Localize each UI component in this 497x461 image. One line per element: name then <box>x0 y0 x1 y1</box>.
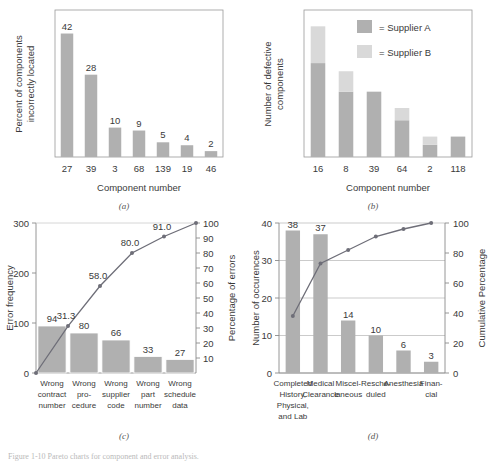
chart-c-line-marker <box>194 221 198 225</box>
chart-a-bar <box>109 128 121 157</box>
chart-b-xtick: 2 <box>427 163 432 174</box>
chart-c-line-marker <box>34 371 38 375</box>
chart-d-xtick: Medical <box>307 379 335 388</box>
chart-c-line-marker <box>98 284 102 288</box>
chart-d-yaxis-right-ticks: 020406080100 <box>445 218 469 379</box>
chart-c-ytick-right: 60 <box>203 278 214 289</box>
chart-b-bar-supplier-a <box>367 92 382 157</box>
chart-a-yaxis-title-line2: incorrectly located <box>25 46 36 123</box>
chart-b-bar-supplier-b <box>423 137 438 145</box>
chart-d-xtick: and Lab <box>278 412 307 421</box>
chart-c-ytick-right: 50 <box>203 293 214 304</box>
chart-c-xtick: cedure <box>72 401 97 410</box>
chart-c-line-marker <box>130 251 134 255</box>
chart-c-xtick: part <box>141 390 156 399</box>
chart-c-yaxis-left-ticks: 0100200300 <box>13 218 36 379</box>
chart-b-xaxis-title: Component number <box>346 182 430 193</box>
chart-d-ytick-right: 100 <box>453 218 469 229</box>
chart-a-bar <box>85 75 97 157</box>
chart-b-bar-supplier-a <box>451 137 466 157</box>
chart-a-svg: 4228109542 27393681391946 Component numb… <box>0 0 248 200</box>
chart-d-ytick-left: 40 <box>261 218 272 229</box>
chart-c-xtick: schedule <box>164 390 197 399</box>
chart-c-ytick-left: 0 <box>24 368 29 379</box>
chart-b-bar-supplier-a <box>423 145 438 157</box>
chart-c-bar-value: 80 <box>79 320 90 331</box>
chart-c-yaxis-right-ticks: 102030405060708090100 <box>196 218 219 364</box>
chart-b-bar-supplier-a <box>339 92 354 157</box>
chart-c-bar <box>134 357 162 374</box>
chart-d-ytick-left: 10 <box>261 330 272 341</box>
chart-b-xtick-labels: 16839642118 <box>313 163 466 174</box>
chart-c-line-marker <box>66 324 70 328</box>
chart-panel-c: 0100200300 102030405060708090100 9480663… <box>0 215 248 443</box>
chart-c-bar <box>102 340 130 373</box>
chart-panel-b: 16839642118 = Supplier A= Supplier B Com… <box>249 0 497 212</box>
chart-c-ytick-right: 10 <box>203 353 214 364</box>
chart-d-bars <box>286 231 439 374</box>
chart-d-ytick-left: 0 <box>267 368 272 379</box>
chart-d-bar <box>313 234 327 373</box>
chart-d-bar <box>396 351 410 374</box>
chart-c-ytick-right: 100 <box>203 218 219 229</box>
chart-a-bar <box>61 34 73 157</box>
chart-b-xtick: 118 <box>450 163 465 174</box>
chart-d-ytick-right: 80 <box>453 248 464 259</box>
chart-d-bar <box>286 231 300 374</box>
chart-c-xtick: Wrong <box>40 379 63 388</box>
chart-d-ytick-left: 30 <box>261 255 272 266</box>
chart-c-bar <box>70 333 98 373</box>
chart-c-xtick: Wrong <box>104 379 127 388</box>
chart-c-svg: 0100200300 102030405060708090100 9480663… <box>0 215 248 430</box>
chart-d-value-labels: 3837141063 <box>288 219 434 361</box>
chart-a-sublabel: (a) <box>0 201 248 211</box>
chart-c-bar-value: 33 <box>143 344 154 355</box>
chart-d-xtick: Finan- <box>420 379 443 388</box>
chart-a-bar <box>157 142 169 157</box>
chart-b-yaxis-title-line2: components <box>274 58 285 110</box>
chart-d-line-marker <box>429 221 433 225</box>
chart-d-bar-value: 37 <box>315 222 326 233</box>
figure-caption: Figure 1-10 Pareto charts for component … <box>8 452 488 461</box>
chart-c-bar-value: 94 <box>47 313 58 324</box>
chart-d-line-marker <box>402 227 406 231</box>
chart-d-xtick-labels: CompletedHistory,Physical,and LabMedical… <box>273 379 442 421</box>
chart-c-bar-value: 66 <box>111 327 122 338</box>
chart-d-ytick-right: 0 <box>453 368 458 379</box>
chart-c-xtick: code <box>107 401 125 410</box>
chart-c-sublabel: (c) <box>0 431 248 441</box>
chart-d-xtick: cial <box>425 390 437 399</box>
chart-c-xtick-labels: WrongcontractnumberWrongpro-cedureWrongs… <box>38 379 197 410</box>
chart-b-xtick: 39 <box>369 163 380 174</box>
chart-c-bar <box>166 360 194 374</box>
chart-a-bar-value: 42 <box>62 21 73 32</box>
chart-a-bar-value: 4 <box>184 132 189 143</box>
chart-a-bar <box>181 145 193 157</box>
chart-c-cumulative-value: 80.0 <box>121 237 140 248</box>
chart-d-bar-value: 38 <box>288 219 299 230</box>
chart-c-cumulative-value: 58.0 <box>89 270 108 281</box>
chart-c-ytick-left: 200 <box>13 268 29 279</box>
chart-b-sublabel: (b) <box>249 201 497 211</box>
chart-d-line-marker <box>346 248 350 252</box>
chart-b-legend-label: = Supplier A <box>379 22 431 33</box>
chart-c-xtick: Wrong <box>72 379 95 388</box>
chart-c-ytick-left: 300 <box>13 218 29 229</box>
chart-a-xtick: 68 <box>134 163 145 174</box>
chart-d-ytick-left: 20 <box>261 293 272 304</box>
chart-a-xaxis-title: Component number <box>97 182 181 193</box>
chart-c-xtick: pro- <box>77 390 92 399</box>
chart-a-xtick: 19 <box>182 163 193 174</box>
chart-c-xtick: data <box>172 401 188 410</box>
chart-a-xtick: 139 <box>155 163 171 174</box>
chart-panel-d: 010203040 020406080100 3837141063 Comple… <box>249 215 497 443</box>
chart-d-svg: 010203040 020406080100 3837141063 Comple… <box>249 215 497 430</box>
chart-b-bar-supplier-b <box>311 26 326 63</box>
chart-a-xtick: 46 <box>206 163 217 174</box>
chart-a-bar-value: 2 <box>208 138 213 149</box>
chart-d-bar-value: 10 <box>371 324 382 335</box>
chart-d-bar-value: 14 <box>343 309 354 320</box>
chart-d-yaxis-left-title: Number of occurences <box>250 250 261 346</box>
chart-a-bar <box>133 131 145 157</box>
